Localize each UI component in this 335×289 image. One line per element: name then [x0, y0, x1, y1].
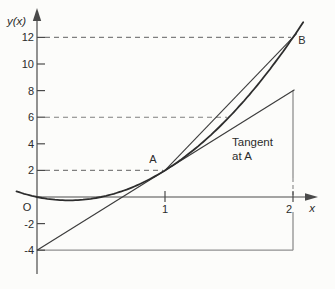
- y-tick-label--2: -2: [24, 218, 34, 230]
- y-tick-label--4: -4: [24, 244, 34, 256]
- point-b-label: B: [298, 34, 305, 46]
- x-tick-label-1: 1: [162, 203, 168, 215]
- x-axis-label: x: [308, 202, 316, 214]
- y-tick-label-6: 6: [28, 111, 34, 123]
- derivative-tangent-figure: 12108642-2-412y(x)xOABTangentat A: [0, 0, 335, 289]
- y-axis-label: y(x): [6, 15, 26, 27]
- origin-label: O: [23, 201, 32, 213]
- point-a-label: A: [149, 153, 157, 165]
- y-axis-arrowhead: [33, 8, 41, 21]
- tangent-label-line2: at A: [232, 150, 252, 162]
- y-tick-label-2: 2: [28, 164, 34, 176]
- y-tick-label-12: 12: [22, 31, 34, 43]
- tangent-chord-chart: 12108642-2-412y(x)xOABTangentat A: [0, 0, 335, 289]
- y-tick-label-8: 8: [28, 85, 34, 97]
- tangent-label-line1: Tangent: [232, 136, 274, 148]
- y-tick-label-4: 4: [28, 138, 34, 150]
- x-axis-arrowhead: [305, 193, 318, 201]
- x-tick-label-2: 2: [286, 203, 292, 215]
- chord-line: [165, 33, 297, 170]
- y-tick-label-10: 10: [22, 58, 34, 70]
